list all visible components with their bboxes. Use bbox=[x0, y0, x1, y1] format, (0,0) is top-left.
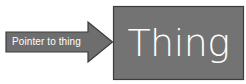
arrow-shape[interactable] bbox=[6, 22, 113, 62]
diagram-canvas: Pointer to thing Thing bbox=[0, 0, 246, 84]
thing-box-shape[interactable] bbox=[114, 7, 244, 80]
arrow-group[interactable] bbox=[6, 22, 113, 62]
diagram-graphics bbox=[0, 0, 246, 84]
thing-box-group[interactable] bbox=[114, 7, 244, 80]
